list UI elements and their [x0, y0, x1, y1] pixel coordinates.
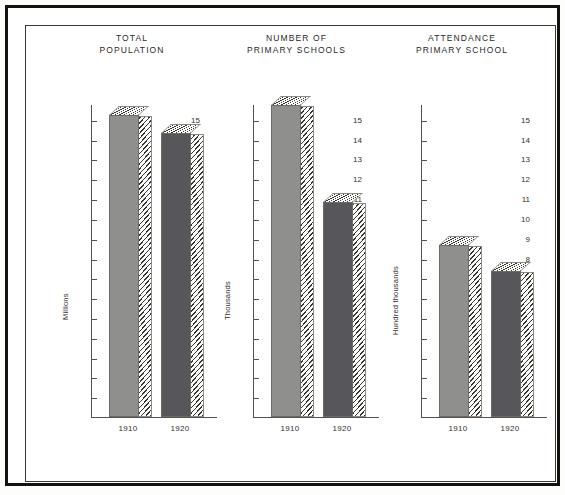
y-tick: [91, 378, 97, 379]
y-tick: [253, 121, 259, 122]
plot-area: 123456789101112131415Hundred thousands19…: [421, 105, 539, 418]
y-tick: [91, 220, 97, 221]
y-tick: [421, 160, 427, 161]
x-axis-label-1920: 1920: [319, 424, 365, 433]
bar-top-face: [491, 262, 531, 271]
y-tick: [253, 319, 259, 320]
y-tick: [421, 220, 427, 221]
x-axis-label-1920: 1920: [157, 424, 203, 433]
x-axis-line: [253, 417, 379, 418]
bar-1920[interactable]: [491, 271, 521, 417]
bar-1920[interactable]: [323, 202, 353, 417]
y-tick: [253, 160, 259, 161]
bar-side-face: [353, 203, 366, 417]
y-tick: [91, 121, 97, 122]
x-axis-label-1910: 1910: [435, 424, 481, 433]
y-tick: [421, 240, 427, 241]
y-tick: [91, 359, 97, 360]
x-axis-line: [91, 417, 217, 418]
bar-side-face: [521, 272, 534, 417]
y-tick: [91, 299, 97, 300]
y-tick: [91, 160, 97, 161]
y-tick: [421, 378, 427, 379]
y-axis-line: [421, 105, 422, 418]
y-tick: [253, 378, 259, 379]
y-axis-line: [91, 105, 92, 418]
x-axis-label-1910: 1910: [105, 424, 151, 433]
x-axis-label-1910: 1910: [267, 424, 313, 433]
y-tick: [253, 220, 259, 221]
bar-1910[interactable]: [271, 105, 301, 417]
x-axis-line: [421, 417, 547, 418]
bar-group: 1920: [323, 105, 367, 417]
bar-group: 1920: [491, 105, 535, 417]
y-tick: [421, 121, 427, 122]
y-tick: [421, 260, 427, 261]
bar-side-face: [139, 116, 152, 417]
y-tick: [421, 200, 427, 201]
bar-1910[interactable]: [439, 245, 469, 417]
y-tick: [253, 200, 259, 201]
figure-plate: TOTAL POPULATION123456789101112131415Mil…: [0, 0, 565, 495]
bar-side-face: [469, 246, 482, 417]
y-tick: [421, 359, 427, 360]
bar-top-face: [323, 193, 363, 202]
bar-side-face: [191, 134, 204, 417]
bar-top-face: [109, 106, 149, 115]
y-tick: [91, 339, 97, 340]
bar-top-face: [161, 124, 201, 133]
y-axis-label: Hundred thousands: [391, 266, 400, 335]
y-tick: [91, 141, 97, 142]
chart-title: NUMBER OF PRIMARY SCHOOLS: [209, 32, 384, 56]
bar-group: 1910: [271, 105, 315, 417]
bar-top-face: [271, 96, 311, 105]
plot-area: 123456789101112131415Millions19101920: [91, 105, 209, 418]
y-axis-label: Thousands: [223, 281, 232, 320]
y-tick: [91, 200, 97, 201]
chart-panel-0: TOTAL POPULATION123456789101112131415Mil…: [47, 17, 217, 474]
y-tick: [253, 240, 259, 241]
y-tick: [253, 398, 259, 399]
y-tick: [91, 398, 97, 399]
bar-1920[interactable]: [161, 133, 191, 417]
bar-group: 1910: [109, 105, 153, 417]
y-tick: [253, 260, 259, 261]
y-tick: [253, 299, 259, 300]
y-tick: [421, 299, 427, 300]
y-tick: [253, 141, 259, 142]
y-axis-line: [253, 105, 254, 418]
y-tick: [421, 141, 427, 142]
y-tick: [91, 279, 97, 280]
y-tick: [91, 240, 97, 241]
y-tick: [421, 180, 427, 181]
y-tick: [253, 279, 259, 280]
y-axis-label: Millions: [61, 293, 70, 320]
bar-group: 1910: [439, 105, 483, 417]
charts-container: TOTAL POPULATION123456789101112131415Mil…: [17, 17, 548, 474]
y-tick: [253, 180, 259, 181]
y-tick: [421, 398, 427, 399]
chart-title: TOTAL POPULATION: [47, 32, 217, 56]
y-tick: [91, 260, 97, 261]
chart-title: ATTENDANCE PRIMARY SCHOOL: [377, 32, 547, 56]
y-tick: [421, 319, 427, 320]
bar-group: 1920: [161, 105, 205, 417]
y-tick: [91, 180, 97, 181]
bar-top-face: [439, 236, 479, 245]
y-tick: [253, 359, 259, 360]
y-tick: [421, 279, 427, 280]
x-axis-label-1920: 1920: [487, 424, 533, 433]
y-tick: [421, 339, 427, 340]
plot-area: 123456789101112131415Thousands19101920: [253, 105, 371, 418]
y-tick: [91, 319, 97, 320]
bar-side-face: [301, 106, 314, 417]
y-tick: [253, 339, 259, 340]
bar-1910[interactable]: [109, 115, 139, 417]
chart-panel-2: ATTENDANCE PRIMARY SCHOOL123456789101112…: [377, 17, 547, 474]
chart-panel-1: NUMBER OF PRIMARY SCHOOLS123456789101112…: [209, 17, 384, 474]
